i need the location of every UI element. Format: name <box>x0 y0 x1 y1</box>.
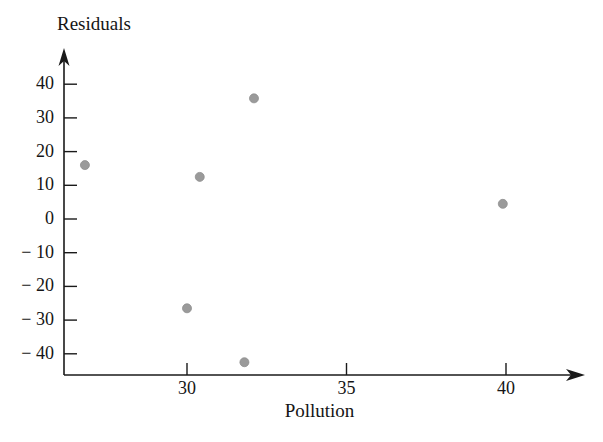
y-tick-label: 0 <box>0 208 54 229</box>
y-axis-title: Residuals <box>57 13 131 35</box>
scatter-point <box>240 358 249 367</box>
y-tick-label: − 20 <box>0 275 54 296</box>
x-tick-label: 35 <box>324 378 370 399</box>
x-tick-label: 40 <box>483 378 529 399</box>
scatter-point <box>80 161 89 170</box>
ticks-group <box>64 84 506 375</box>
scatter-point <box>183 304 192 313</box>
y-tick-label: 30 <box>0 107 54 128</box>
axes-group <box>59 48 586 381</box>
y-tick-label: 40 <box>0 73 54 94</box>
residuals-scatter-figure: Residuals Pollution 403020100− 10− 20− 3… <box>0 0 603 442</box>
x-tick-label: 30 <box>164 378 210 399</box>
plot-canvas <box>0 0 603 442</box>
y-tick-label: − 40 <box>0 343 54 364</box>
scatter-point <box>498 199 507 208</box>
y-tick-label: − 30 <box>0 309 54 330</box>
scatter-point <box>195 172 204 181</box>
y-tick-label: 10 <box>0 174 54 195</box>
x-axis-title: Pollution <box>0 400 603 422</box>
scatter-point <box>249 94 258 103</box>
data-points-group <box>80 94 507 367</box>
y-tick-label: − 10 <box>0 242 54 263</box>
y-tick-label: 20 <box>0 141 54 162</box>
